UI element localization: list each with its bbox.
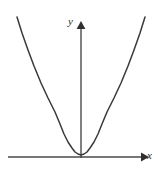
y-axis-label: y — [68, 16, 73, 27]
y-axis-arrow-icon — [77, 21, 86, 29]
parabola-figure: y x — [0, 0, 158, 169]
plot-canvas — [0, 0, 158, 169]
x-axis-label: x — [147, 150, 152, 161]
